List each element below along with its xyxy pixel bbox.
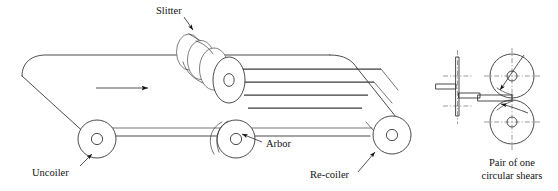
label-shears-line2: circular shears <box>482 170 543 181</box>
blade-upper-flange <box>436 84 456 89</box>
uncoiler-roller-shaft <box>91 133 102 144</box>
slitter-assembly <box>177 34 246 103</box>
sheet-left-flank <box>22 76 88 136</box>
rollers <box>78 116 411 158</box>
sheet-top-right-corner <box>330 55 357 68</box>
arbor-roller-shaft <box>230 133 241 144</box>
slitter-arbor-hub <box>224 74 234 87</box>
blade-vertical-body <box>456 57 459 116</box>
label-uncoiler: Uncoiler <box>32 167 69 178</box>
strip-fold-1 <box>381 69 398 90</box>
recoiler-roller-shaft <box>386 129 397 140</box>
figure-canvas: Slitter Uncoiler Arbor Re-coiler Pair of… <box>0 0 558 191</box>
sheet-top-left-wrap <box>22 55 186 76</box>
label-arbor: Arbor <box>266 138 292 149</box>
detail-circular-shears <box>478 48 540 150</box>
blade-lower-flange <box>459 93 480 98</box>
label-slitter: Slitter <box>156 5 182 16</box>
detail-blade-side-section <box>436 50 480 124</box>
recoiler-tangent <box>366 122 373 130</box>
recoiler-leader <box>358 152 375 172</box>
slitting-line-diagram: Slitter Uncoiler Arbor Re-coiler Pair of… <box>0 0 558 191</box>
label-shears-line1: Pair of one <box>489 157 535 168</box>
slitter-leader <box>184 17 193 30</box>
uncoiler-leader <box>80 154 92 166</box>
label-recoiler: Re-coiler <box>310 169 350 180</box>
